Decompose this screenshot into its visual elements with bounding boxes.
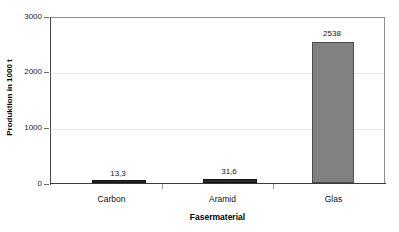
y-tick-mark [44, 72, 49, 73]
x-category-separator [273, 184, 274, 189]
bar-value-glas: 2538 [285, 30, 379, 38]
bar-carbon[interactable] [92, 180, 146, 183]
bar-value-carbon: 13,3 [71, 170, 165, 178]
y-axis-tick-0: 0 [0, 180, 42, 188]
x-axis-line [50, 183, 386, 184]
x-category-separator [162, 184, 163, 189]
x-axis-title: Fasermaterial [50, 212, 385, 222]
y-axis-title: Produktion in 1000 t [5, 48, 14, 148]
y-axis-tick-3000: 3000 [0, 13, 42, 21]
y-axis-tick-label: 3000 [4, 13, 42, 21]
y-axis-tick-label: 0 [4, 180, 42, 188]
x-category-label-aramid: Aramid [171, 194, 274, 204]
y-axis-line [50, 17, 51, 185]
y-axis-tick-label: 1000 [4, 124, 42, 132]
x-category-label-glas: Glas [282, 194, 385, 204]
y-tick-mark [44, 128, 49, 129]
bar-glas[interactable] [312, 42, 354, 183]
y-axis-tick-1000: 1000 [0, 124, 42, 132]
y-axis-tick-label: 2000 [4, 68, 42, 76]
y-axis-tick-2000: 2000 [0, 68, 42, 76]
y-tick-mark [44, 17, 49, 18]
chart-title-remnant [130, 0, 270, 4]
y-tick-mark [44, 184, 49, 185]
bar-chart: Produktion in 1000 t 3000 2000 1000 0 13… [0, 0, 399, 232]
bar-aramid[interactable] [203, 179, 257, 183]
bar-value-aramid: 31,6 [182, 168, 276, 176]
x-category-label-carbon: Carbon [60, 194, 163, 204]
plot-area [50, 17, 385, 184]
